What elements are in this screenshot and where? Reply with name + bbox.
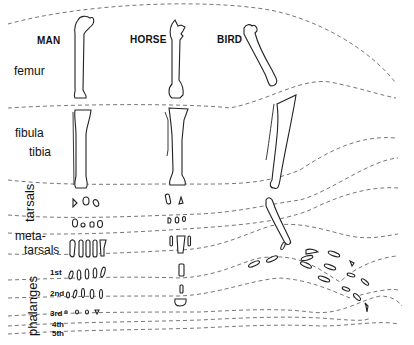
row-label-fibula: fibula (15, 126, 44, 140)
phalanx-label-3rd: 3rd (50, 309, 62, 318)
bird-femur (244, 25, 277, 86)
phalanx-label-4th: 4th (52, 320, 64, 329)
column-label-bird: BIRD (217, 34, 242, 45)
row-label-tarsals: tarsals (22, 184, 37, 222)
man-femur (74, 16, 94, 98)
bird-fibula (266, 104, 274, 160)
phalanx-label-2nd: 2nd (50, 289, 64, 298)
column-label-horse: HORSE (130, 34, 167, 45)
row-label-metatarsals-line2: tarsals (24, 243, 59, 257)
horse-bones (165, 20, 191, 306)
bird-tibiotarsus (270, 95, 296, 189)
man-fibula (73, 112, 74, 185)
row-label-phalanges: phalanges (25, 276, 40, 336)
row-label-metatarsals-line1: meta- (15, 229, 46, 243)
row-label-tibia: tibia (29, 145, 51, 159)
bird-bones (244, 25, 369, 312)
horse-tibia (169, 108, 188, 185)
horse-fibula (165, 112, 168, 156)
man-tibia (75, 110, 91, 188)
phalanx-label-1st: 1st (50, 268, 62, 277)
region-boundaries (8, 4, 402, 334)
column-label-man: MAN (37, 35, 60, 46)
phalanx-label-5th: 5th (52, 329, 64, 338)
horse-femur (169, 20, 185, 98)
row-label-femur: femur (14, 64, 45, 78)
man-bones (65, 16, 106, 314)
